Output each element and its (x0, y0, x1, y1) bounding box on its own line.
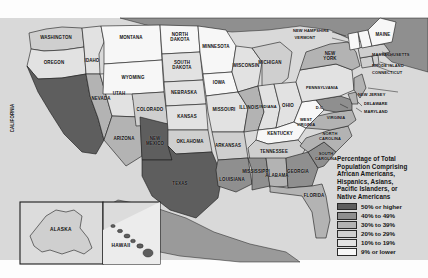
legend-row[interactable]: 9% or lower (337, 248, 428, 256)
legend-label: 20% to 29% (361, 230, 395, 237)
state-nebraska[interactable] (164, 80, 206, 106)
legend-label: 50% or higher (361, 203, 402, 210)
state-oklahoma[interactable] (168, 130, 212, 154)
legend-row[interactable]: 50% or higher (337, 203, 428, 211)
legend-swatch (337, 221, 357, 228)
state-alabama[interactable] (266, 158, 288, 188)
legend-title: Percentage of Total Population Comprisin… (337, 155, 428, 201)
state-louisiana[interactable] (216, 158, 252, 192)
label-hawaii: HAWAII (112, 243, 131, 248)
legend-row[interactable]: 10% to 19% (337, 239, 428, 247)
label-alaska: ALASKA (50, 227, 72, 232)
legend-row[interactable]: 30% to 39% (337, 221, 428, 229)
legend-label: 9% or lower (361, 248, 396, 255)
state-south-dakota[interactable] (162, 52, 203, 82)
legend-swatch (337, 230, 357, 237)
state-arkansas[interactable] (212, 132, 248, 160)
state-vermont[interactable] (348, 32, 360, 50)
legend-swatch (337, 239, 357, 246)
insets-layer (20, 202, 160, 264)
choropleth-map-figure: WASHINGTON OREGON IDAHO CALIFORNIA NEVAD… (0, 0, 428, 278)
legend-label: 10% to 19% (361, 239, 395, 246)
legend-swatch (337, 203, 357, 210)
legend-row[interactable]: 40% to 49% (337, 212, 428, 220)
map-legend: Percentage of Total Population Comprisin… (337, 155, 428, 257)
state-north-dakota[interactable] (160, 25, 200, 54)
state-wyoming[interactable] (103, 60, 164, 94)
legend-label: 40% to 49% (361, 212, 395, 219)
legend-items: 50% or higher40% to 49%30% to 39%20% to … (337, 203, 428, 257)
legend-label: 30% to 39% (361, 221, 395, 228)
legend-row[interactable]: 20% to 29% (337, 230, 428, 238)
legend-swatch (337, 248, 357, 255)
state-kansas[interactable] (166, 104, 208, 130)
state-montana[interactable] (101, 25, 162, 64)
state-oregon[interactable] (27, 47, 86, 79)
legend-swatch (337, 212, 357, 219)
